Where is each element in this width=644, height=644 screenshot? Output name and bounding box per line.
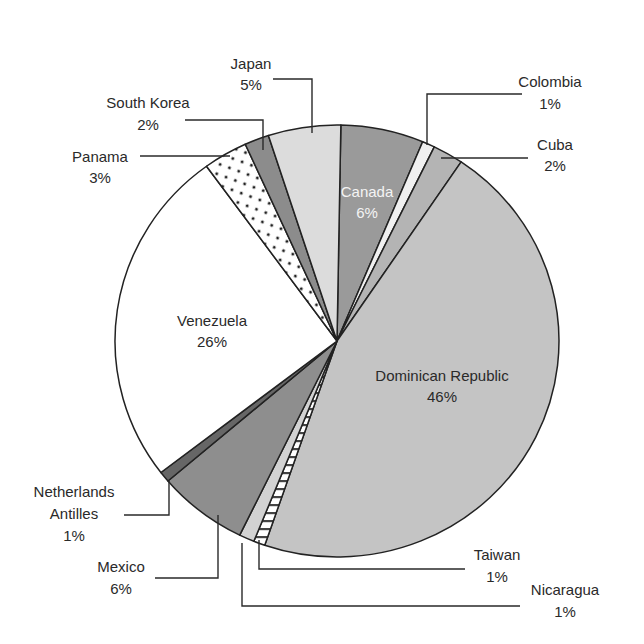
label-cuba-pct: 2% [544,157,566,174]
label-mexico: Mexico [97,558,145,575]
label-dominican-republic-pct: 46% [427,388,457,405]
label-netherlands-antilles-1: Netherlands [34,483,115,500]
label-taiwan: Taiwan [474,546,521,563]
leader-colombia [427,94,522,145]
label-colombia-pct: 1% [539,95,561,112]
label-netherlands-antilles-2: Antilles [50,505,98,522]
label-canada: Canada [341,183,394,200]
label-venezuela: Venezuela [177,312,248,329]
pie-chart: Japan 5% South Korea 2% Panama 3% Colomb… [0,0,644,644]
label-nicaragua-pct: 1% [554,603,576,620]
label-netherlands-antilles-pct: 1% [63,527,85,544]
label-nicaragua: Nicaragua [531,581,600,598]
label-taiwan-pct: 1% [486,568,508,585]
label-dominican-republic: Dominican Republic [375,367,509,384]
label-japan-pct: 5% [240,76,262,93]
label-canada-pct: 6% [356,204,378,221]
leader-mexico [155,515,218,578]
label-panama: Panama [72,148,129,165]
leader-netherlands-antilles [124,481,169,515]
label-colombia: Colombia [518,73,582,90]
pie-slices [115,125,559,557]
label-cuba: Cuba [537,136,574,153]
label-mexico-pct: 6% [110,580,132,597]
leader-japan [273,79,312,133]
label-south-korea-pct: 2% [137,116,159,133]
label-venezuela-pct: 26% [197,333,227,350]
label-japan: Japan [231,55,272,72]
label-panama-pct: 3% [89,169,111,186]
label-south-korea: South Korea [106,94,190,111]
